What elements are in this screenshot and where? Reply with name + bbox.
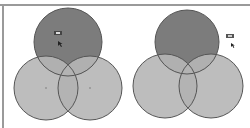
venn-diagram-right: [133, 10, 243, 118]
venn-canvas: [0, 0, 250, 128]
center-dot-icon: [89, 87, 91, 89]
cursor-icon: [231, 43, 235, 48]
venn-diagram-left: [14, 8, 122, 120]
center-dot-icon: [45, 87, 47, 89]
